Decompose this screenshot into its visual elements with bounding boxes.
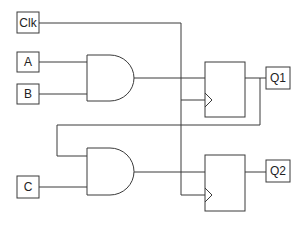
input-clk: Clk — [17, 12, 39, 33]
input-a: A — [17, 52, 39, 72]
flip-flop-2 — [205, 155, 245, 211]
and-gate-1 — [87, 55, 134, 101]
output-q2-label: Q2 — [270, 164, 286, 178]
input-b-label: B — [24, 87, 32, 101]
flip-flop-1 — [205, 62, 245, 117]
and-gate-2 — [87, 148, 134, 195]
output-q1: Q1 — [266, 67, 290, 89]
input-c-label: C — [24, 180, 33, 194]
input-a-label: A — [24, 55, 32, 69]
output-q2: Q2 — [266, 160, 290, 182]
circuit-diagram: Clk A B C Q1 Q2 — [0, 0, 306, 229]
input-c: C — [17, 176, 39, 198]
input-clk-label: Clk — [19, 16, 37, 30]
input-b: B — [17, 84, 39, 104]
output-q1-label: Q1 — [270, 71, 286, 85]
circuit-svg: Clk A B C Q1 Q2 — [0, 0, 306, 229]
